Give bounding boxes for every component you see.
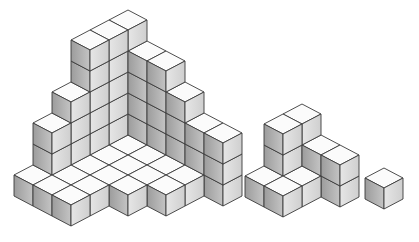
medium-step-structure	[245, 104, 359, 217]
single-cube	[365, 168, 403, 209]
isometric-cube-figure	[0, 0, 419, 242]
cube	[365, 168, 403, 209]
cube-structures	[14, 10, 403, 226]
large-corner-structure	[14, 10, 242, 226]
